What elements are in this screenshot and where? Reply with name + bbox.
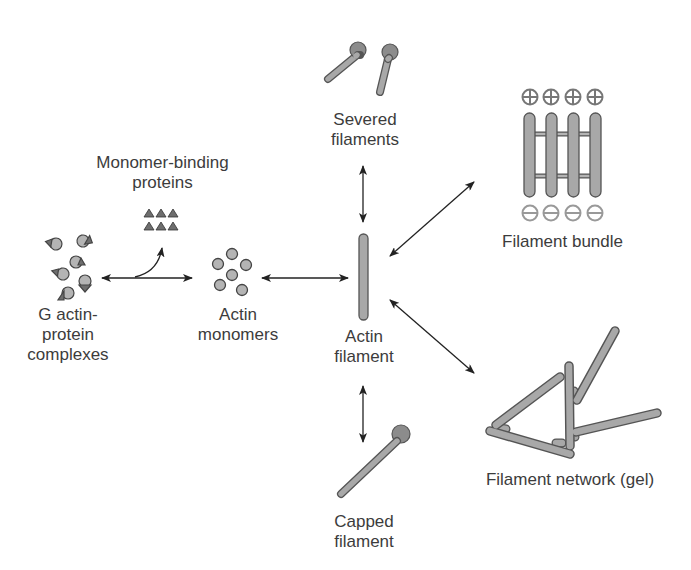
label-actin-monomers: Actin monomers — [188, 305, 288, 345]
filament-bundle-icon — [523, 90, 603, 221]
minus-end-marks — [523, 206, 603, 221]
crosslinks — [530, 134, 595, 176]
actin-diagram: Monomer-binding proteins G actin- protei… — [0, 0, 691, 570]
label-severed-filaments: Severed filaments — [310, 110, 420, 150]
label-g-actin-protein-complexes: G actin- protein complexes — [18, 305, 118, 365]
actin-monomers-icon — [213, 249, 252, 296]
filament-network-icon — [490, 331, 657, 454]
capped-filament-icon — [341, 425, 410, 494]
arrows — [102, 166, 474, 442]
plus-end-marks — [523, 90, 603, 105]
severed-filaments-icon — [328, 42, 398, 92]
label-actin-filament: Actin filament — [314, 327, 414, 367]
arrow-to-monomer-binding — [135, 248, 162, 277]
arrow-filament-bundle — [390, 182, 474, 256]
actin-filament-icon — [359, 234, 368, 320]
monomer-binding-proteins-icon — [144, 209, 178, 230]
label-monomer-binding-proteins: Monomer-binding proteins — [80, 153, 245, 193]
label-capped-filament: Capped filament — [314, 512, 414, 552]
label-filament-bundle: Filament bundle — [480, 232, 645, 252]
label-filament-network: Filament network (gel) — [455, 470, 685, 490]
g-actin-complexes-icon — [45, 231, 94, 300]
